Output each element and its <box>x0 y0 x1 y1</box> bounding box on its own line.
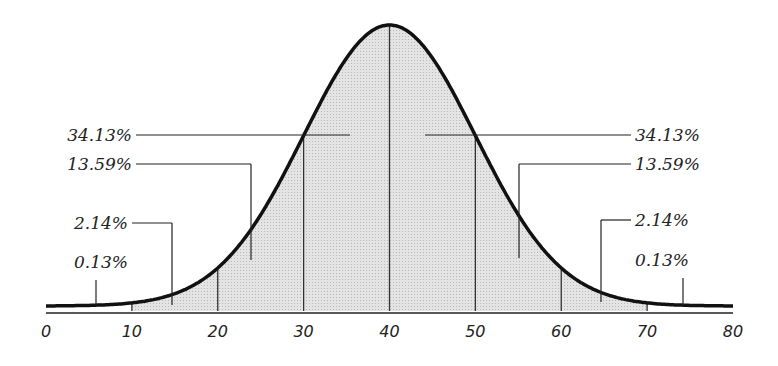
right-label-2: 2.14% <box>634 210 689 230</box>
right-label-1: 13.59% <box>635 154 700 174</box>
left-label-2: 2.14% <box>73 213 128 233</box>
x-tick-40: 40 <box>379 322 399 341</box>
chart-canvas: 01020304050607080 34.13%13.59%2.14%0.13%… <box>0 0 778 366</box>
x-tick-10: 10 <box>122 322 142 341</box>
right-label-0: 34.13% <box>635 125 700 145</box>
sd-divider-lines <box>132 25 647 311</box>
x-tick-80: 80 <box>723 322 743 341</box>
x-tick-0: 0 <box>41 322 51 341</box>
right-label-3: 0.13% <box>635 250 689 270</box>
x-tick-labels: 01020304050607080 <box>41 322 743 341</box>
left-label-3: 0.13% <box>74 252 128 272</box>
x-tick-20: 20 <box>208 322 228 341</box>
x-tick-30: 30 <box>293 322 313 341</box>
left-label-0: 34.13% <box>67 125 132 145</box>
left-label-1: 13.59% <box>67 154 132 174</box>
x-tick-70: 70 <box>637 322 657 341</box>
x-tick-50: 50 <box>465 322 485 341</box>
x-tick-60: 60 <box>551 322 571 341</box>
normal-distribution-chart: 01020304050607080 34.13%13.59%2.14%0.13%… <box>0 0 778 366</box>
